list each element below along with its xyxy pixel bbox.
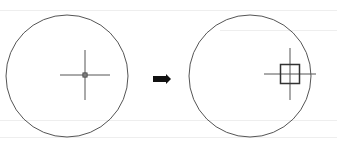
transition-arrow-icon	[153, 74, 171, 84]
before-circle	[6, 15, 128, 137]
before-panel	[6, 15, 128, 137]
arrow-shaft	[153, 76, 167, 82]
pickbox-diagram	[0, 0, 337, 146]
after-circle	[189, 15, 311, 137]
after-panel	[189, 15, 316, 137]
arrow-head	[166, 74, 171, 84]
